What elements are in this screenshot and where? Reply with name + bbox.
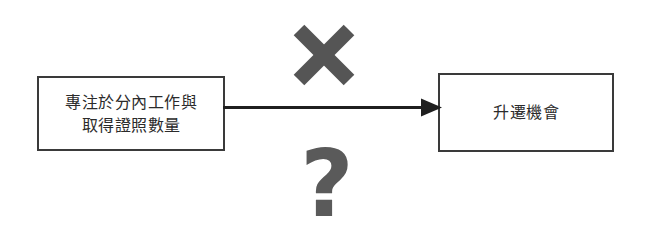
diagram-node-cause-line-2: 取得證照數量 xyxy=(82,114,181,137)
arrow-connector-icon xyxy=(222,92,442,122)
question-mark-icon: ? xyxy=(297,143,357,227)
diagram-node-cause-line-1: 專注於分內工作與 xyxy=(65,91,197,114)
diagram-canvas: 專注於分內工作與 取得證照數量 升遷機會 ? xyxy=(0,0,651,232)
diagram-node-cause: 專注於分內工作與 取得證照數量 xyxy=(37,76,225,151)
diagram-node-effect: 升遷機會 xyxy=(438,73,614,152)
arrow-head xyxy=(421,99,442,117)
cross-mark-icon xyxy=(291,24,357,86)
diagram-node-effect-line-1: 升遷機會 xyxy=(493,101,559,124)
